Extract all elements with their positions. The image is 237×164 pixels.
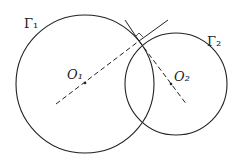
label-gamma2: Γ₂ <box>207 34 221 49</box>
diagram: Γ₁ Γ₂ O₁ O₂ <box>0 0 237 164</box>
right-angle-mark <box>136 33 143 37</box>
tangent-line-2-solid <box>125 20 139 41</box>
center-o1-dot <box>84 82 87 85</box>
label-o1: O₁ <box>67 67 83 82</box>
label-gamma1: Γ₁ <box>24 16 38 31</box>
center-o2-dot <box>170 83 173 86</box>
label-o2: O₂ <box>174 69 190 84</box>
